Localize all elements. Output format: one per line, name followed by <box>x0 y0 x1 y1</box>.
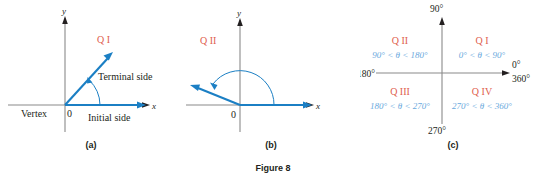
panel-b-caption: (b) <box>182 140 360 150</box>
angle-arc <box>213 71 274 105</box>
axis-label-180: 180° <box>360 69 375 79</box>
quadrant-label-4: Q IV <box>472 86 493 97</box>
axis-label-360: 360° <box>512 74 530 84</box>
initial-side-arrowhead <box>303 102 312 109</box>
initial-side-label: Initial side <box>88 112 131 123</box>
axis-label-0: 0° <box>512 60 521 70</box>
terminal-side-label: Terminal side <box>98 71 153 82</box>
panel-c: 90° 270° 180° 0° 360° Q II 90° < θ < 180… <box>360 0 546 189</box>
terminal-side-arrowhead <box>190 85 200 92</box>
y-axis-arrowhead <box>62 16 68 24</box>
terminal-side-ray <box>198 88 240 105</box>
horizontal-axis-arrowhead <box>502 70 510 76</box>
panel-a-diagram: y x 0 Vertex Initial side Terminal side … <box>0 0 182 140</box>
panel-b-x-axis-label: x <box>315 101 320 111</box>
quadrant-range-1: 0° < θ < 90° <box>459 50 506 60</box>
quadrant-label-3: Q III <box>390 86 410 97</box>
panel-a-origin-label: 0 <box>67 108 72 119</box>
quadrant-range-2: 90° < θ < 180° <box>372 50 428 60</box>
panel-a: y x 0 Vertex Initial side Terminal side … <box>0 0 182 189</box>
panel-b: y x 0 Q II (b) <box>182 0 360 189</box>
quadrant-range-3: 180° < θ < 270° <box>370 101 430 111</box>
y-axis-arrowhead <box>237 18 243 26</box>
panel-a-caption: (a) <box>0 140 182 150</box>
panel-c-caption: (c) <box>360 140 546 150</box>
panel-c-diagram: 90° 270° 180° 0° 360° Q II 90° < θ < 180… <box>360 0 546 140</box>
panel-b-diagram: y x 0 Q II <box>182 0 360 140</box>
terminal-side-arrowhead <box>104 52 114 60</box>
axis-label-270: 270° <box>428 126 446 136</box>
quadrant-label-1: Q I <box>475 35 488 46</box>
vertex-label: Vertex <box>21 108 47 119</box>
quadrant-range-4: 270° < θ < 360° <box>452 101 512 111</box>
figure-caption: Figure 8 <box>0 163 546 173</box>
initial-side-arrowhead <box>137 102 146 109</box>
panel-b-y-axis-label: y <box>236 8 241 18</box>
vertical-axis-arrowhead <box>439 17 445 25</box>
quadrant-label-2: Q II <box>392 35 408 46</box>
angle-arc <box>89 80 100 105</box>
axis-label-90: 90° <box>430 4 444 14</box>
panel-a-quadrant-label: Q I <box>97 34 110 45</box>
panel-a-y-axis-label: y <box>61 6 66 16</box>
panel-b-origin-label: 0 <box>231 109 236 120</box>
panel-a-x-axis-label: x <box>151 101 156 111</box>
panel-b-quadrant-label: Q II <box>200 35 216 46</box>
